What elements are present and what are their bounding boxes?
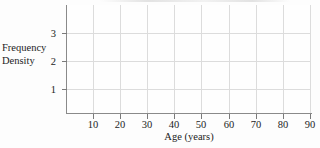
- x-axis-tick-label: 30: [136, 119, 158, 130]
- x-axis-tick-label: 20: [109, 119, 131, 130]
- y-axis-tick-label: 1: [42, 84, 56, 95]
- gridline-vertical: [93, 5, 94, 113]
- y-axis-line: [66, 5, 67, 114]
- gridline-vertical: [201, 5, 202, 113]
- gridline-vertical: [174, 5, 175, 113]
- x-axis-line: [66, 113, 312, 114]
- gridline-vertical: [283, 5, 284, 113]
- x-axis-title: Age (years): [66, 131, 312, 143]
- y-axis-tick: [62, 61, 67, 62]
- plot-area: [66, 5, 311, 113]
- frequency-density-histogram-figure: 3 2 1 10 20 30 40 50 60 70 80 90 Frequen…: [0, 0, 320, 148]
- x-axis-tick-label: 60: [218, 119, 240, 130]
- gridline-vertical: [256, 5, 257, 113]
- gridline-vertical: [120, 5, 121, 113]
- gridline-horizontal: [66, 89, 311, 90]
- y-axis-tick: [62, 89, 67, 90]
- scan-artifact: [100, 0, 290, 2]
- y-axis-tick-label: 3: [42, 28, 56, 39]
- x-axis-tick-label: 10: [82, 119, 104, 130]
- y-axis-title-line-2: Density: [2, 55, 54, 68]
- y-axis-title: Frequency Density: [2, 42, 54, 67]
- gridline-vertical: [147, 5, 148, 113]
- x-axis-tick-label: 80: [272, 119, 294, 130]
- x-axis-tick-label: 90: [299, 119, 320, 130]
- x-axis-tick-label: 50: [190, 119, 212, 130]
- x-axis-tick-label: 40: [163, 119, 185, 130]
- gridline-vertical: [229, 5, 230, 113]
- y-axis-tick: [62, 33, 67, 34]
- x-axis-tick-label: 70: [245, 119, 267, 130]
- gridline-horizontal: [66, 33, 311, 34]
- gridline-horizontal: [66, 61, 311, 62]
- gridline-vertical: [310, 5, 311, 113]
- y-axis-title-line-1: Frequency: [2, 42, 54, 55]
